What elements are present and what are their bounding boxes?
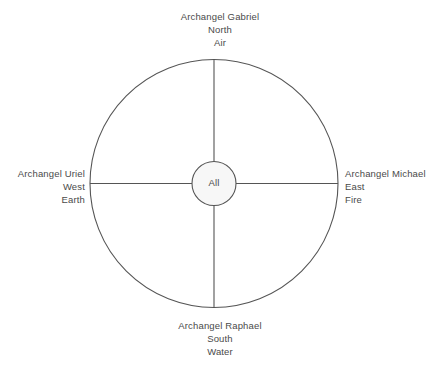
east-archangel-text: Archangel Michael bbox=[345, 167, 440, 180]
quadrant-label-south: Archangel Raphael South Water bbox=[0, 319, 440, 358]
center-label: All bbox=[184, 177, 244, 189]
quadrant-label-west: Archangel Uriel West Earth bbox=[0, 167, 85, 206]
quadrant-label-north: Archangel Gabriel North Air bbox=[0, 10, 440, 49]
center-label-text: All bbox=[208, 177, 219, 188]
north-element-text: Air bbox=[0, 36, 440, 49]
east-element-text: Fire bbox=[345, 193, 440, 206]
south-element-text: Water bbox=[0, 345, 440, 358]
south-archangel-text: Archangel Raphael bbox=[0, 319, 440, 332]
west-archangel-text: Archangel Uriel bbox=[0, 167, 85, 180]
north-direction-text: North bbox=[0, 23, 440, 36]
archangel-wheel-diagram: All Archangel Gabriel North Air Archange… bbox=[0, 0, 440, 367]
north-archangel-text: Archangel Gabriel bbox=[0, 10, 440, 23]
west-element-text: Earth bbox=[0, 193, 85, 206]
west-direction-text: West bbox=[0, 180, 85, 193]
quadrant-label-east: Archangel Michael East Fire bbox=[345, 167, 440, 206]
east-direction-text: East bbox=[345, 180, 440, 193]
south-direction-text: South bbox=[0, 332, 440, 345]
